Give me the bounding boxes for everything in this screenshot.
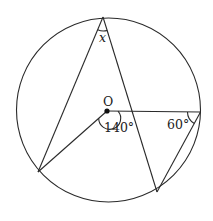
circle-diagram: x O 140° 60° [0, 0, 213, 221]
label-60: 60° [167, 117, 189, 132]
label-center-o: O [103, 94, 113, 109]
label-x: x [99, 30, 106, 45]
label-140: 140° [104, 120, 134, 135]
radius-to-right [107, 111, 201, 112]
radius-to-lower-left [38, 111, 107, 172]
center-dot [104, 108, 109, 113]
